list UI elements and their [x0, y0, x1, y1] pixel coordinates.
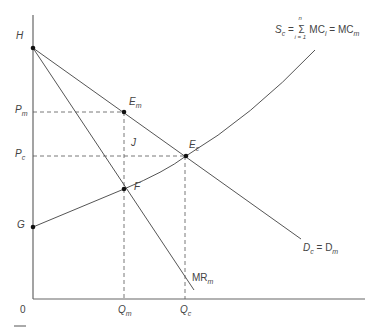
label-qm: Qm — [118, 304, 132, 317]
label-g: G — [17, 219, 25, 230]
point-h — [31, 46, 36, 51]
label-demand: Dc = Dm — [303, 242, 338, 255]
label-em: Em — [129, 96, 142, 109]
label-qc: Qc — [180, 304, 191, 317]
label-supply: Sc = Σni = 1 MCi = MCm — [275, 24, 359, 37]
diagram-canvas — [0, 0, 379, 328]
label-mr: MRm — [192, 272, 213, 285]
point-g — [31, 225, 36, 230]
label-j: J — [131, 137, 136, 148]
label-ec: Ec — [189, 139, 199, 152]
label-h: H — [16, 30, 23, 41]
label-origin: 0 — [20, 304, 26, 315]
label-pc: Pc — [15, 148, 25, 161]
label-f: F — [134, 181, 140, 192]
point-ec — [184, 154, 189, 159]
point-em — [122, 110, 127, 115]
supply-curve — [33, 50, 315, 227]
marginal-revenue-curve — [33, 48, 194, 290]
point-f — [122, 187, 127, 192]
label-pm: Pm — [15, 104, 28, 117]
